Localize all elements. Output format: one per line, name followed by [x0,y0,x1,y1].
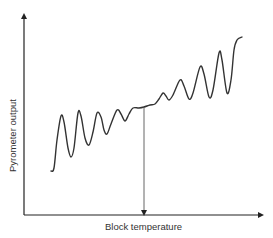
x-axis-label: Block temperature [105,221,182,232]
pyrometer-chart: Pyrometer output Block temperature [0,0,273,238]
pyrometer-curve [51,37,242,171]
y-axis-label: Pyrometer output [7,99,18,172]
